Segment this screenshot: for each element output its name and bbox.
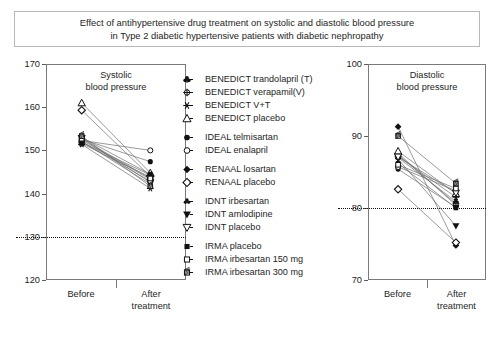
legend-item-label: IRMA irbesartan 150 mg	[203, 254, 303, 264]
square-open-icon	[181, 252, 203, 265]
legend-item-label: IDEAL telmisartan	[203, 132, 278, 142]
legend-item[interactable]: RENAAL losartan	[181, 162, 331, 175]
circle-cross-icon	[181, 85, 203, 98]
club-filled-icon	[181, 72, 203, 85]
triangle-down-filled-icon	[181, 207, 203, 220]
legend-item-label: IDEAL enalapril	[203, 145, 268, 155]
legend-item[interactable]: RENAAL placebo	[181, 175, 331, 188]
circle-open-icon	[181, 143, 203, 156]
legend-item-label: BENEDICT verapamil(V)	[203, 87, 305, 97]
legend-item[interactable]: BENEDICT V+T	[181, 98, 331, 111]
legend-item[interactable]: IDNT irbesartan	[181, 194, 331, 207]
legend-item[interactable]: IRMA irbesartan 150 mg	[181, 252, 331, 265]
legend-item[interactable]: BENEDICT verapamil(V)	[181, 85, 331, 98]
legend-item[interactable]: IRMA placebo	[181, 239, 331, 252]
legend-item[interactable]: IDEAL enalapril	[181, 143, 331, 156]
legend: BENEDICT trandolapril (T)BENEDICT verapa…	[181, 72, 331, 278]
legend-item-label: IDNT irbesartan	[203, 196, 269, 206]
legend-item[interactable]: BENEDICT trandolapril (T)	[181, 72, 331, 85]
circle-filled-icon	[181, 130, 203, 143]
club-small-icon	[181, 194, 203, 207]
square-filled-icon	[181, 239, 203, 252]
figure-root: Effect of antihypertensive drug treatmen…	[0, 0, 495, 340]
legend-item-label: BENEDICT V+T	[203, 100, 270, 110]
diastolic-datapoint-after	[454, 179, 459, 186]
diastolic-datapoint-before	[395, 123, 402, 130]
legend-item[interactable]: IDNT amlodipine	[181, 207, 331, 220]
star-icon	[181, 98, 203, 111]
diastolic-datapoint-after	[454, 206, 459, 211]
legend-item-label: IRMA placebo	[203, 241, 262, 251]
diastolic-datapoint-before	[396, 131, 401, 138]
diastolic-datapoint-before	[396, 163, 401, 168]
triangle-down-open-icon	[181, 220, 203, 233]
diastolic-datapoint-after	[454, 186, 459, 191]
legend-item[interactable]: BENEDICT placebo	[181, 111, 331, 124]
legend-item-label: IRMA irbesartan 300 mg	[203, 267, 303, 277]
diamond-filled-icon	[181, 162, 203, 175]
legend-item-label: RENAAL losartan	[203, 164, 276, 174]
diamond-open-icon	[181, 175, 203, 188]
legend-item[interactable]: IDEAL telmisartan	[181, 130, 331, 143]
legend-item-label: BENEDICT placebo	[203, 113, 285, 123]
legend-item-label: RENAAL placebo	[203, 177, 275, 187]
legend-item[interactable]: IDNT placebo	[181, 220, 331, 233]
diastolic-datapoint-before	[394, 147, 401, 154]
legend-item-label: BENEDICT trandolapril (T)	[203, 74, 312, 84]
legend-item-label: IDNT amlodipine	[203, 209, 273, 219]
square-hatched-icon	[181, 265, 203, 278]
diastolic-series-line	[398, 163, 456, 208]
diastolic-series-line	[398, 158, 456, 202]
triangle-open-icon	[181, 111, 203, 124]
legend-item[interactable]: IRMA irbesartan 300 mg	[181, 265, 331, 278]
diastolic-datapoint-after	[452, 223, 459, 229]
legend-item-label: IDNT placebo	[203, 222, 260, 232]
